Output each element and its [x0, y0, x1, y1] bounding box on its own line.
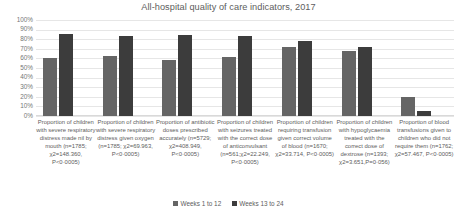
bar[interactable]: [417, 111, 431, 116]
bar[interactable]: [282, 47, 296, 116]
legend-label: Weeks 13 to 24: [239, 200, 283, 207]
chart-title: All-hospital quality of care indicators,…: [0, 2, 457, 12]
legend-item[interactable]: Weeks 1 to 12: [173, 200, 221, 207]
x-axis-category-label: Proportion of children with hypoglycaemi…: [335, 118, 395, 166]
x-axis-category-label: Proportion of children with severe respi…: [36, 118, 96, 166]
y-axis-tick-label: 20%: [0, 94, 33, 100]
bar-group: [155, 20, 215, 116]
plot-area: [36, 20, 454, 116]
y-axis-tick-label: 50%: [0, 65, 33, 71]
y-axis-tick-label: 80%: [0, 36, 33, 42]
x-axis-labels: Proportion of children with severe respi…: [36, 118, 454, 198]
bar[interactable]: [162, 60, 176, 116]
bar-group: [36, 20, 96, 116]
x-axis-category-label: Proportion of antibiotic doses prescribe…: [155, 118, 215, 158]
bar[interactable]: [178, 35, 192, 116]
bar[interactable]: [59, 34, 73, 116]
bar[interactable]: [298, 41, 312, 116]
legend-label: Weeks 1 to 12: [180, 200, 221, 207]
x-axis-category-label: Proportion of children with seizures tre…: [215, 118, 275, 166]
bar-group: [96, 20, 156, 116]
bar[interactable]: [103, 56, 117, 116]
y-axis-tick-label: 70%: [0, 46, 33, 52]
y-axis-tick-label: 90%: [0, 26, 33, 32]
bar-group: [215, 20, 275, 116]
y-axis-tick-label: 0%: [0, 113, 33, 119]
y-axis-tick-label: 10%: [0, 103, 33, 109]
chart-legend: Weeks 1 to 12Weeks 13 to 24: [0, 200, 457, 207]
bar[interactable]: [43, 58, 57, 116]
bar-group: [394, 20, 454, 116]
y-axis-tick-label: 100%: [0, 17, 33, 23]
y-axis-tick-label: 40%: [0, 74, 33, 80]
legend-swatch-icon: [173, 201, 178, 206]
gridline: [36, 116, 454, 117]
x-axis-category-label: Proportion of children requiring transfu…: [275, 118, 335, 158]
bar-group: [335, 20, 395, 116]
y-axis: 100%90%80%70%60%50%40%30%20%10%0%: [0, 20, 33, 116]
legend-swatch-icon: [232, 201, 237, 206]
x-axis-category-label: Proportion of blood transfusions given t…: [394, 118, 454, 158]
bar[interactable]: [238, 36, 252, 116]
bar-group: [275, 20, 335, 116]
y-axis-tick-label: 30%: [0, 84, 33, 90]
bar[interactable]: [119, 36, 133, 116]
legend-item[interactable]: Weeks 13 to 24: [232, 200, 283, 207]
y-axis-tick-label: 60%: [0, 55, 33, 61]
x-axis-category-label: Proportion of children with severe respi…: [96, 118, 156, 158]
bar[interactable]: [222, 57, 236, 116]
bar[interactable]: [401, 97, 415, 116]
bar[interactable]: [342, 51, 356, 116]
chart-container: All-hospital quality of care indicators,…: [0, 0, 457, 216]
bar[interactable]: [358, 47, 372, 116]
